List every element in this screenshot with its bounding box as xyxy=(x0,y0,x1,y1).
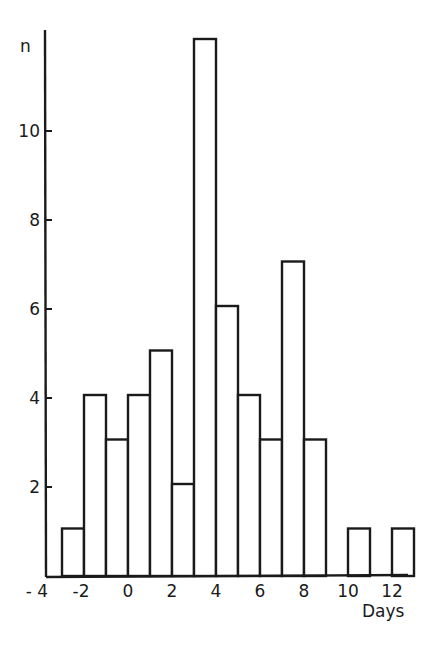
y-tick-label: 2 xyxy=(29,477,40,497)
x-tick-label: 0 xyxy=(123,581,134,601)
histogram-bar xyxy=(348,529,370,577)
y-tick-label: 8 xyxy=(29,210,40,230)
histogram-bar xyxy=(194,39,216,576)
y-tick-label: 4 xyxy=(29,388,40,408)
x-tick-label: 4 xyxy=(211,581,222,601)
x-tick-label: - 4 xyxy=(26,581,48,601)
y-axis-ticks: 246810 xyxy=(18,121,52,497)
y-axis-title: n xyxy=(20,36,31,56)
histogram-bars xyxy=(62,39,414,576)
histogram-chart: 246810 - 4-2024681012 n Days xyxy=(0,0,429,645)
histogram-bar xyxy=(216,306,238,576)
x-tick-label: 8 xyxy=(299,581,310,601)
x-tick-label: 10 xyxy=(337,581,359,601)
histogram-bar xyxy=(84,395,106,576)
x-tick-label: 12 xyxy=(381,581,403,601)
y-axis xyxy=(45,30,46,577)
y-tick-label: 10 xyxy=(18,121,40,141)
histogram-bar xyxy=(106,440,128,577)
y-tick-label: 6 xyxy=(29,299,40,319)
x-axis-title: Days xyxy=(362,601,405,621)
histogram-bar xyxy=(304,440,326,577)
histogram-bar xyxy=(150,351,172,577)
histogram-bar xyxy=(62,529,84,577)
histogram-bar xyxy=(128,395,150,576)
histogram-bar xyxy=(260,440,282,577)
histogram-bar xyxy=(238,395,260,576)
x-tick-label: 2 xyxy=(167,581,178,601)
histogram-bar xyxy=(282,262,304,577)
histogram-bar xyxy=(392,529,414,577)
x-tick-label: -2 xyxy=(73,581,90,601)
histogram-bar xyxy=(172,484,194,576)
x-axis-ticks: - 4-2024681012 xyxy=(26,581,403,601)
x-tick-label: 6 xyxy=(255,581,266,601)
